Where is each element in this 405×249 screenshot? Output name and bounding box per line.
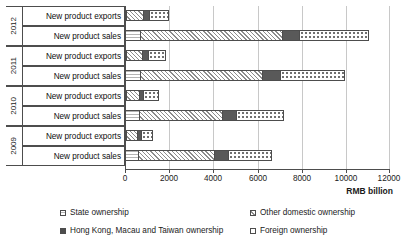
category-label-2010-sales: New product sales xyxy=(22,106,125,126)
legend-swatch-foreign-icon xyxy=(250,228,256,234)
x-tick-label-6000: 6000 xyxy=(249,174,267,183)
legend-swatch-state-icon xyxy=(60,210,66,216)
bar-2009-sales xyxy=(125,150,272,161)
legend-label: Other domestic ownership xyxy=(260,208,355,217)
year-label: 2010 xyxy=(10,97,18,115)
bar-segment-otherdom xyxy=(126,90,139,101)
year-group-2011: 2011 xyxy=(6,46,22,86)
bar-2010-sales xyxy=(125,110,284,121)
x-axis-title: RMB billion xyxy=(346,186,393,196)
category-label-2011-exports: New product exports xyxy=(22,46,125,66)
bar-2011-sales xyxy=(125,70,345,81)
bar-segment-foreign xyxy=(299,30,369,41)
bar-segment-hkmt xyxy=(214,150,228,161)
year-label: 2009 xyxy=(10,137,18,155)
category-label-text: New product exports xyxy=(46,132,121,141)
legend-swatch-hkmt-icon xyxy=(60,228,66,234)
bar-segment-foreign xyxy=(228,150,272,161)
category-label-text: New product sales xyxy=(54,72,121,81)
bar-segment-otherdom xyxy=(126,10,143,21)
bar-segment-foreign xyxy=(280,70,345,81)
bar-segment-state xyxy=(125,30,140,41)
bar-segment-foreign xyxy=(149,10,169,21)
year-label: 2012 xyxy=(10,17,18,35)
legend-label: State ownership xyxy=(70,208,129,217)
category-label-2011-sales: New product sales xyxy=(22,66,125,86)
x-tick-label-12000: 12000 xyxy=(378,174,401,183)
gridline-12000 xyxy=(389,6,390,169)
category-label-text: New product exports xyxy=(46,12,121,21)
chart-figure: 2012 2011 2010 2009 New product exports … xyxy=(0,0,405,249)
category-label-2009-sales: New product sales xyxy=(22,146,125,166)
bar-segment-otherdom xyxy=(126,50,142,61)
year-label: 2011 xyxy=(10,57,18,74)
bar-segment-state xyxy=(125,110,139,121)
category-label-2010-exports: New product exports xyxy=(22,86,125,106)
bar-segment-otherdom xyxy=(139,110,222,121)
bar-segment-hkmt xyxy=(282,30,300,41)
x-tick-6000 xyxy=(258,169,259,173)
x-tick-label-2000: 2000 xyxy=(160,174,178,183)
x-tick-8000 xyxy=(302,169,303,173)
bar-2011-exports xyxy=(125,50,166,61)
category-label-text: New product sales xyxy=(54,112,121,121)
bar-segment-foreign xyxy=(143,90,158,101)
year-group-2009: 2009 xyxy=(6,126,22,166)
x-tick-label-10000: 10000 xyxy=(335,174,358,183)
x-tick-0 xyxy=(125,169,126,173)
x-tick-label-4000: 4000 xyxy=(204,174,222,183)
legend-label: Foreign ownership xyxy=(260,226,327,235)
chart-legend: State ownership Other domestic ownership… xyxy=(0,206,405,246)
bar-segment-otherdom xyxy=(140,70,262,81)
bar-segment-foreign xyxy=(148,50,166,61)
bar-segment-hkmt xyxy=(262,70,280,81)
x-tick-label-0: 0 xyxy=(123,174,128,183)
category-label-text: New product exports xyxy=(46,92,121,101)
legend-item-hkmt: Hong Kong, Macau and Taiwan ownership xyxy=(60,226,223,235)
plot-area xyxy=(125,6,390,169)
bar-segment-otherdom xyxy=(140,30,281,41)
category-label-text: New product sales xyxy=(54,32,121,41)
bar-2012-sales xyxy=(125,30,369,41)
bar-segment-hkmt xyxy=(222,110,236,121)
bar-segment-state xyxy=(125,70,140,81)
legend-item-other-domestic: Other domestic ownership xyxy=(250,208,355,217)
category-label-2012-exports: New product exports xyxy=(22,6,125,26)
bar-segment-otherdom xyxy=(138,150,214,161)
legend-item-foreign: Foreign ownership xyxy=(250,226,327,235)
x-tick-12000 xyxy=(389,169,390,173)
category-label-2009-exports: New product exports xyxy=(22,126,125,146)
category-label-text: New product exports xyxy=(46,52,121,61)
category-label-2012-sales: New product sales xyxy=(22,26,125,46)
bar-2009-exports xyxy=(125,130,153,141)
bar-segment-foreign xyxy=(236,110,284,121)
x-tick-2000 xyxy=(169,169,170,173)
category-label-text: New product sales xyxy=(54,152,121,161)
legend-swatch-other-domestic-icon xyxy=(250,210,256,216)
legend-item-state: State ownership xyxy=(60,208,129,217)
bar-2010-exports xyxy=(125,90,159,101)
bar-segment-foreign xyxy=(141,130,153,141)
x-tick-label-8000: 8000 xyxy=(293,174,311,183)
bar-segment-state xyxy=(125,150,138,161)
legend-label: Hong Kong, Macau and Taiwan ownership xyxy=(70,226,223,235)
bar-segment-otherdom xyxy=(126,130,137,141)
year-group-2012: 2012 xyxy=(6,6,22,46)
year-group-2010: 2010 xyxy=(6,86,22,126)
x-tick-10000 xyxy=(346,169,347,173)
x-tick-4000 xyxy=(213,169,214,173)
bar-2012-exports xyxy=(125,10,169,21)
